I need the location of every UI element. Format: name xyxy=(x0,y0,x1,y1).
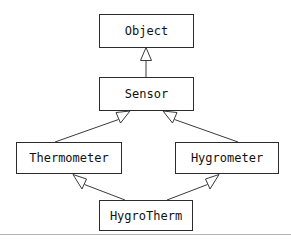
class-box-sensor[interactable]: Sensor xyxy=(99,77,194,111)
footer-divider xyxy=(0,234,291,235)
class-name-hygrometer: Hygrometer xyxy=(191,152,263,164)
class-box-thermometer[interactable]: Thermometer xyxy=(16,142,122,174)
class-name-hygrotherm: HygroTherm xyxy=(110,210,182,222)
hollow-triangle-arrowhead-icon xyxy=(206,175,220,190)
edge-hygrotherm-to-hygrometer xyxy=(167,175,219,201)
edge-hygrometer-to-sensor xyxy=(163,111,238,142)
class-name-object: Object xyxy=(125,25,168,37)
edge-line-hygrotherm-to-hygrometer xyxy=(167,185,208,201)
class-box-object[interactable]: Object xyxy=(99,14,194,48)
edge-line-hygrometer-to-sensor xyxy=(175,120,239,143)
hollow-triangle-arrowhead-icon xyxy=(141,48,152,61)
edge-sensor-to-object xyxy=(141,48,152,78)
edge-line-hygrotherm-to-thermometer xyxy=(85,185,126,201)
class-name-thermometer: Thermometer xyxy=(29,152,108,164)
edge-thermometer-to-sensor xyxy=(55,111,130,142)
class-box-hygrometer[interactable]: Hygrometer xyxy=(175,142,279,174)
uml-class-diagram: Object Sensor Thermometer Hygrometer Hyg… xyxy=(0,0,291,241)
hollow-triangle-arrowhead-icon xyxy=(163,111,177,123)
class-box-hygrotherm[interactable]: HygroTherm xyxy=(99,200,193,231)
edge-hygrotherm-to-thermometer xyxy=(73,175,125,201)
class-name-sensor: Sensor xyxy=(125,88,168,100)
hollow-triangle-arrowhead-icon xyxy=(116,111,130,123)
edge-line-thermometer-to-sensor xyxy=(55,120,119,143)
hollow-triangle-arrowhead-icon xyxy=(73,175,87,190)
